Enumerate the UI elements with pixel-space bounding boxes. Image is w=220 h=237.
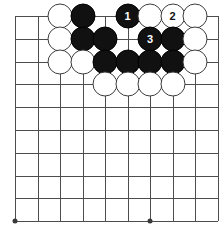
stone-black[interactable] — [160, 26, 185, 51]
stone-move-number: 2 — [169, 11, 175, 22]
board-vertical-line — [38, 16, 39, 221]
stone-white[interactable] — [115, 72, 140, 97]
stone-black[interactable] — [93, 26, 118, 51]
stone-white[interactable] — [183, 26, 208, 51]
stone-white[interactable] — [48, 4, 73, 29]
stone-white[interactable] — [183, 49, 208, 74]
board-vertical-line — [15, 16, 16, 221]
board-vertical-line — [128, 16, 129, 221]
stone-black-move-1[interactable]: 1 — [115, 4, 140, 29]
stone-white[interactable] — [93, 72, 118, 97]
stone-white[interactable] — [160, 72, 185, 97]
board-horizontal-line — [15, 130, 218, 131]
stone-white[interactable] — [138, 72, 163, 97]
star-point — [148, 219, 153, 224]
stone-black[interactable] — [115, 49, 140, 74]
stone-move-number: 1 — [124, 11, 130, 22]
stone-black[interactable] — [70, 26, 95, 51]
board-horizontal-line — [15, 107, 218, 108]
board-horizontal-line — [15, 221, 218, 222]
stone-black-move-3[interactable]: 3 — [138, 26, 163, 51]
stone-white[interactable] — [48, 26, 73, 51]
board-vertical-line — [218, 16, 219, 221]
stone-white[interactable] — [183, 4, 208, 29]
stone-white-move-2[interactable]: 2 — [160, 4, 185, 29]
go-diagram: 123 — [0, 0, 220, 237]
stone-black[interactable] — [138, 49, 163, 74]
stone-black[interactable] — [70, 4, 95, 29]
board-horizontal-line — [15, 153, 218, 154]
stone-black[interactable] — [93, 49, 118, 74]
stone-white[interactable] — [138, 4, 163, 29]
stone-white[interactable] — [48, 49, 73, 74]
go-board[interactable]: 123 — [0, 0, 220, 237]
stone-move-number: 3 — [147, 33, 153, 44]
star-point — [13, 219, 18, 224]
stone-black[interactable] — [160, 49, 185, 74]
board-horizontal-line — [15, 176, 218, 177]
stone-white[interactable] — [70, 49, 95, 74]
board-horizontal-line — [15, 198, 218, 199]
